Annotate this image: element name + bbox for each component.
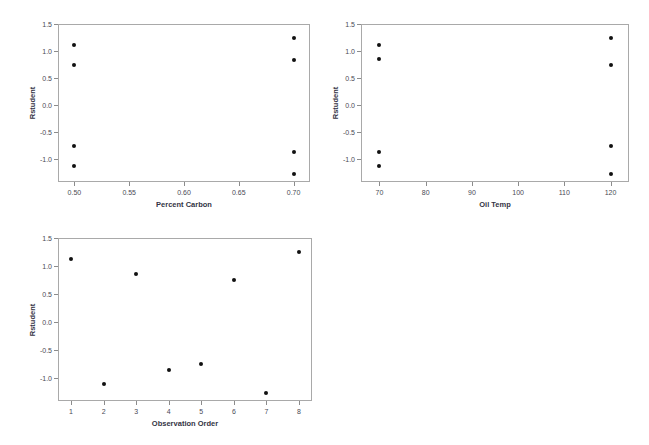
x-tick-label-oiltemp-0: 70 — [376, 189, 384, 196]
y-tick-label-carbon-5: -1.0 — [40, 156, 52, 163]
x-tick-order-0 — [71, 401, 72, 405]
chart-panel-oil-temp: 1.51.00.50.0-0.5-1.0708090100110120Oil T… — [330, 0, 649, 220]
x-tick-label-oiltemp-1: 80 — [422, 189, 430, 196]
x-tick-order-3 — [169, 401, 170, 405]
x-tick-label-carbon-0: 0.50 — [68, 189, 82, 196]
y-tick-label-order-3: 0.0 — [42, 318, 52, 325]
x-tick-oiltemp-0 — [379, 182, 380, 186]
y-tick-label-oiltemp-5: -1.0 — [343, 156, 355, 163]
data-point — [292, 58, 296, 62]
y-tick-order-2 — [54, 294, 58, 295]
x-tick-oiltemp-2 — [472, 182, 473, 186]
y-tick-carbon-2 — [54, 78, 58, 79]
x-tick-label-carbon-4: 0.70 — [287, 189, 301, 196]
data-point — [609, 144, 613, 148]
x-tick-label-order-0: 1 — [69, 408, 73, 415]
y-tick-label-carbon-0: 1.5 — [42, 21, 52, 28]
x-tick-label-order-2: 3 — [134, 408, 138, 415]
x-tick-label-order-4: 5 — [199, 408, 203, 415]
y-tick-oiltemp-1 — [357, 51, 361, 52]
x-axis-title-oiltemp: Oil Temp — [479, 200, 511, 209]
x-tick-carbon-4 — [294, 182, 295, 186]
y-tick-oiltemp-4 — [357, 132, 361, 133]
data-point — [609, 63, 613, 67]
y-tick-oiltemp-2 — [357, 78, 361, 79]
data-point — [297, 250, 301, 254]
y-tick-carbon-5 — [54, 159, 58, 160]
y-tick-label-carbon-4: -0.5 — [40, 129, 52, 136]
y-tick-label-carbon-2: 0.5 — [42, 75, 52, 82]
x-tick-label-oiltemp-4: 110 — [559, 189, 570, 196]
y-tick-label-oiltemp-1: 1.0 — [345, 48, 355, 55]
y-axis-title-carbon: Rstudent — [28, 87, 37, 120]
y-tick-oiltemp-5 — [357, 159, 361, 160]
y-tick-carbon-3 — [54, 105, 58, 106]
x-tick-label-oiltemp-5: 120 — [605, 189, 617, 196]
y-tick-order-1 — [54, 266, 58, 267]
plot-area-carbon — [58, 24, 310, 182]
x-tick-oiltemp-1 — [426, 182, 427, 186]
x-tick-order-6 — [266, 401, 267, 405]
plot-area-oiltemp — [361, 24, 629, 182]
y-tick-label-carbon-1: 1.0 — [42, 48, 52, 55]
y-tick-order-5 — [54, 378, 58, 379]
x-tick-carbon-3 — [239, 182, 240, 186]
y-tick-label-oiltemp-4: -0.5 — [343, 129, 355, 136]
y-tick-label-oiltemp-0: 1.5 — [345, 21, 355, 28]
y-tick-carbon-0 — [54, 24, 58, 25]
x-tick-label-carbon-2: 0.60 — [177, 189, 191, 196]
x-tick-oiltemp-5 — [611, 182, 612, 186]
x-tick-order-4 — [201, 401, 202, 405]
plot-area-order — [58, 238, 312, 401]
data-point — [609, 36, 613, 40]
x-tick-label-oiltemp-2: 90 — [468, 189, 476, 196]
x-axis-title-carbon: Percent Carbon — [156, 200, 212, 209]
y-tick-label-oiltemp-3: 0.0 — [345, 102, 355, 109]
y-tick-label-carbon-3: 0.0 — [42, 102, 52, 109]
y-tick-label-order-0: 1.5 — [42, 235, 52, 242]
y-tick-label-order-1: 1.0 — [42, 262, 52, 269]
y-tick-label-order-2: 0.5 — [42, 290, 52, 297]
y-tick-carbon-1 — [54, 51, 58, 52]
chart-panel-percent-carbon: 1.51.00.50.0-0.5-1.00.500.550.600.650.70… — [0, 0, 330, 220]
x-tick-label-order-5: 6 — [232, 408, 236, 415]
x-tick-order-2 — [136, 401, 137, 405]
x-tick-carbon-1 — [129, 182, 130, 186]
x-tick-label-order-6: 7 — [264, 408, 268, 415]
y-tick-oiltemp-0 — [357, 24, 361, 25]
x-tick-label-order-1: 2 — [102, 408, 106, 415]
y-axis-title-order: Rstudent — [28, 303, 37, 336]
data-point — [292, 36, 296, 40]
x-axis-title-order: Observation Order — [152, 419, 218, 428]
y-tick-oiltemp-3 — [357, 105, 361, 106]
y-tick-order-4 — [54, 350, 58, 351]
data-point — [102, 382, 106, 386]
x-tick-carbon-0 — [74, 182, 75, 186]
x-tick-label-carbon-1: 0.55 — [122, 189, 136, 196]
y-tick-label-order-4: -0.5 — [40, 346, 52, 353]
x-tick-label-carbon-3: 0.65 — [232, 189, 246, 196]
x-tick-order-7 — [299, 401, 300, 405]
x-tick-label-order-3: 4 — [167, 408, 171, 415]
data-point — [292, 150, 296, 154]
y-tick-order-3 — [54, 322, 58, 323]
x-tick-label-order-7: 8 — [297, 408, 301, 415]
x-tick-order-1 — [104, 401, 105, 405]
y-tick-label-oiltemp-2: 0.5 — [345, 75, 355, 82]
x-tick-label-oiltemp-3: 100 — [512, 189, 524, 196]
x-tick-oiltemp-3 — [518, 182, 519, 186]
x-tick-carbon-2 — [184, 182, 185, 186]
x-tick-oiltemp-4 — [564, 182, 565, 186]
y-tick-label-order-5: -1.0 — [40, 374, 52, 381]
y-tick-order-0 — [54, 238, 58, 239]
chart-panel-observation-order: 1.51.00.50.0-0.5-1.012345678Observation … — [0, 225, 340, 445]
y-axis-title-oiltemp: Rstudent — [331, 87, 340, 120]
y-tick-carbon-4 — [54, 132, 58, 133]
x-tick-order-5 — [234, 401, 235, 405]
